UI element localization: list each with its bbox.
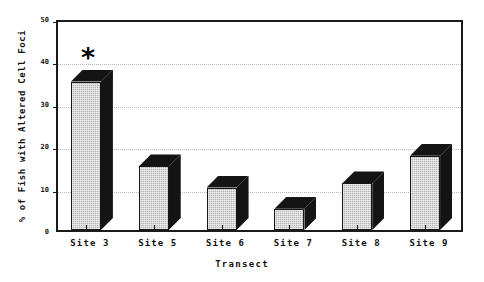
bar-front-face <box>342 183 372 230</box>
y-tick-mark <box>53 192 58 193</box>
bar-site-6 <box>207 176 249 230</box>
plot-area <box>56 20 463 232</box>
bar-front-face <box>71 82 101 230</box>
x-tick-mark <box>289 225 290 230</box>
y-tick-mark <box>53 107 58 108</box>
y-gridline <box>58 107 461 108</box>
significance-asterisk: * <box>81 44 95 71</box>
y-tick-label: 0 <box>27 229 49 236</box>
y-tick-mark <box>53 64 58 65</box>
x-tick-label-site-3: Site 3 <box>56 238 124 248</box>
y-tick-mark <box>53 22 58 23</box>
x-tick-mark <box>425 225 426 230</box>
bar-front-face <box>410 156 440 230</box>
y-tick-label: 30 <box>27 102 49 109</box>
x-tick-label-site-6: Site 6 <box>192 238 260 248</box>
x-tick-label-site-5: Site 5 <box>124 238 192 248</box>
y-gridline <box>58 149 461 150</box>
bar-side-face <box>169 154 181 230</box>
y-tick-label: 40 <box>27 59 49 66</box>
bar-site-3 <box>71 70 113 230</box>
bar-site-5 <box>139 154 181 230</box>
x-axis-label: Transect <box>0 259 484 269</box>
bar-front-face <box>207 188 237 230</box>
x-tick-label-site-9: Site 9 <box>395 238 463 248</box>
y-axis-label: % of Fish with Altered Cell Foci <box>14 18 30 234</box>
y-gridline <box>58 64 461 65</box>
bar-site-8 <box>342 171 384 230</box>
x-tick-label-site-7: Site 7 <box>260 238 328 248</box>
bar-front-face <box>139 166 169 230</box>
x-tick-label-site-8: Site 8 <box>327 238 395 248</box>
x-tick-mark <box>154 225 155 230</box>
y-tick-label: 50 <box>27 17 49 24</box>
x-tick-mark <box>86 225 87 230</box>
bar-side-face <box>440 144 452 230</box>
x-tick-mark <box>357 225 358 230</box>
y-tick-label: 10 <box>27 187 49 194</box>
y-tick-label: 20 <box>27 144 49 151</box>
x-tick-mark <box>222 225 223 230</box>
y-tick-mark <box>53 149 58 150</box>
bar-site-7 <box>274 197 316 230</box>
chart-figure: % of Fish with Altered Cell Foci Transec… <box>0 0 484 282</box>
bar-site-9 <box>410 144 452 230</box>
bar-side-face <box>101 70 113 230</box>
y-gridline <box>58 192 461 193</box>
